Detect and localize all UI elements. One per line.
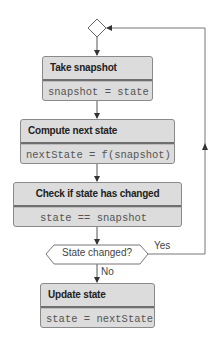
merge-diamond <box>88 19 106 37</box>
compute-next-state-box: Compute next state nextState = f(snapsho… <box>20 119 175 164</box>
take-snapshot-code: snapshot = state <box>43 81 152 101</box>
check-state-changed-title: Check if state has changed <box>14 183 181 207</box>
compute-next-state-code: nextState = f(snapshot) <box>21 144 174 164</box>
take-snapshot-title: Take snapshot <box>43 57 152 81</box>
decision-label: State changed? <box>46 247 148 258</box>
check-state-changed-code: state == snapshot <box>14 207 181 227</box>
yes-label: Yes <box>154 240 170 251</box>
check-state-changed-box: Check if state has changed state == snap… <box>13 182 182 227</box>
update-state-title: Update state <box>41 284 154 308</box>
compute-next-state-title: Compute next state <box>21 120 174 144</box>
update-state-code: state = nextState <box>41 308 154 328</box>
update-state-box: Update state state = nextState <box>40 283 155 328</box>
take-snapshot-box: Take snapshot snapshot = state <box>42 56 153 101</box>
no-label: No <box>101 266 114 277</box>
